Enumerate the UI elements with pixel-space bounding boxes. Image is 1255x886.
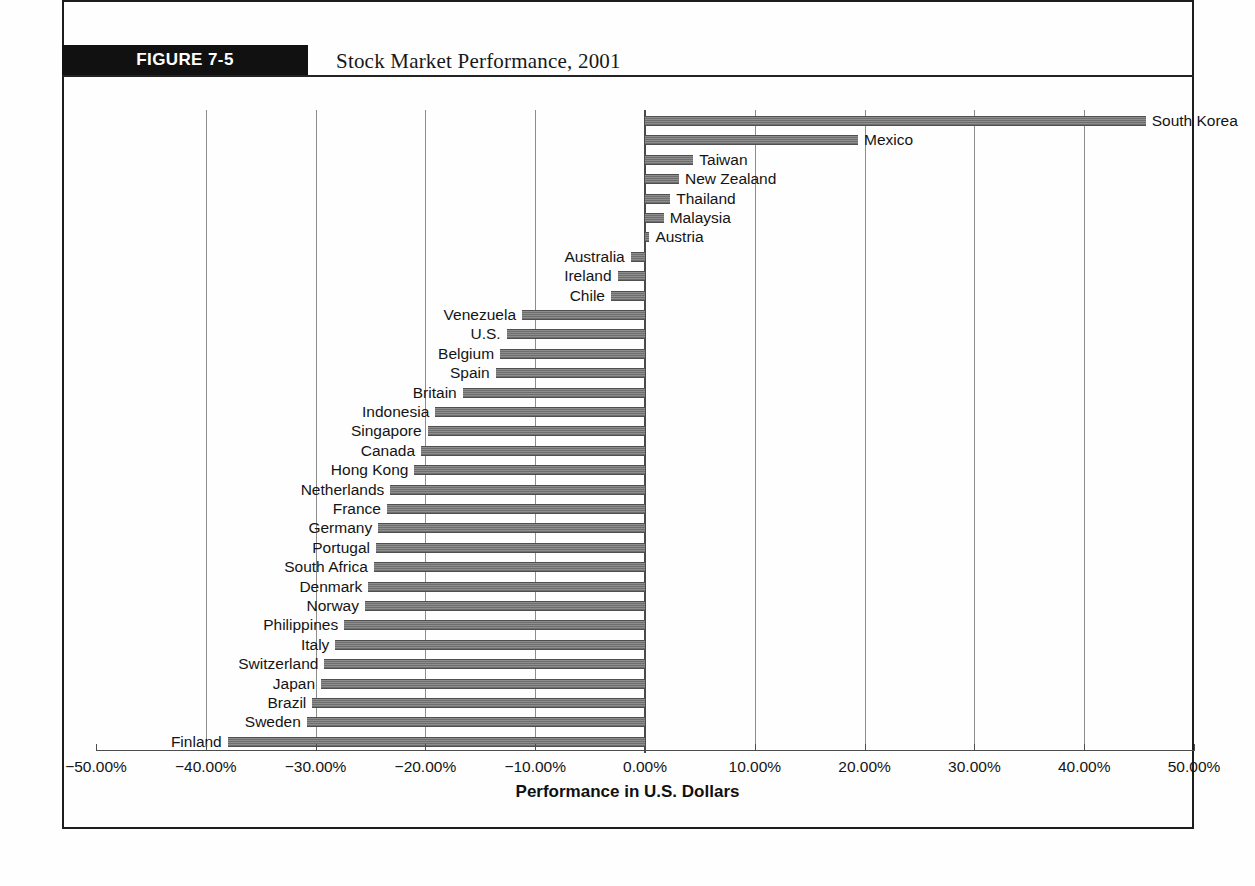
page-border-top [62, 0, 1194, 2]
page-border-right [1192, 0, 1194, 44]
figure-title: Stock Market Performance, 2001 [336, 47, 1036, 75]
figure-number-banner: FIGURE 7-5 [62, 45, 308, 75]
page-sheet: FIGURE 7-5 Stock Market Performance, 200… [0, 0, 1255, 886]
figure-frame [62, 44, 1194, 829]
figure-number-label: FIGURE 7-5 [136, 50, 234, 70]
header-divider [62, 75, 1194, 77]
page-border-left [62, 0, 64, 44]
x-tick [1194, 744, 1195, 751]
